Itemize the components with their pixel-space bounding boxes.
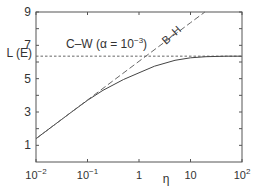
annotations: C–W (α = 10−3)B–H	[66, 23, 183, 51]
x-tick-label: 10	[184, 169, 196, 181]
cw-annotation: C–W (α = 10−3)	[66, 36, 147, 51]
series-group	[36, 12, 242, 139]
y-tick-label: 7	[24, 38, 31, 52]
x-axis-label: η	[163, 172, 170, 186]
y-tick-label: 9	[24, 5, 31, 19]
x-tick-label: 10−2	[25, 167, 47, 181]
series-cw-solid	[36, 56, 242, 139]
chart-container: L (E) 1357910−210−1110102η C–W (α = 10−3…	[0, 0, 265, 190]
plot-frame	[36, 12, 242, 162]
axes	[36, 12, 242, 162]
y-tick-label: 5	[24, 72, 31, 86]
x-tick-label: 10−1	[77, 167, 99, 181]
y-tick-label: 1	[24, 138, 31, 152]
x-tick-label: 1	[136, 169, 142, 181]
plot-svg: L (E) 1357910−210−1110102η C–W (α = 10−3…	[0, 0, 265, 190]
x-tick-label: 102	[234, 167, 251, 181]
bh-annotation: B–H	[159, 23, 183, 46]
y-tick-label: 3	[24, 105, 31, 119]
tick-labels: 1357910−210−1110102η	[24, 5, 251, 186]
